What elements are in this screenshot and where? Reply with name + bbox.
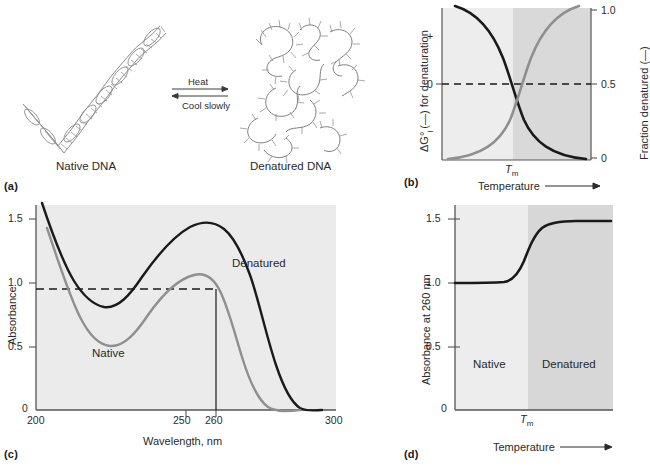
- panel-label-a: (a): [4, 180, 18, 192]
- equilibrium-arrows: [172, 87, 228, 99]
- panel-d-region-label-native: Native: [473, 358, 506, 370]
- panel-d-region-label-denatured: Denatured: [542, 358, 596, 370]
- panel-b-temperature-arrow: [545, 183, 600, 189]
- panel-c-native-curve-label: Native: [92, 347, 125, 359]
- panel-b-free-energy-chart: + 0 − 1.0 0.5 0 ΔG° (—) for denaturation…: [400, 0, 644, 195]
- panel-b-right-tick-label-1: 1.0: [601, 4, 616, 16]
- panel-c-x-axis-title: Wavelength, nm: [143, 435, 222, 447]
- panel-c-denatured-curve-label: Denatured: [232, 257, 286, 269]
- panel-b-y2-axis-title: Fraction denatured (—): [638, 46, 650, 160]
- panel-a-dna-denaturation-diagram: Native DNA Denatured DNA Heat Cool slowl…: [0, 0, 400, 195]
- panel-c-plot: [0, 195, 400, 468]
- panel-label-b: (b): [404, 176, 419, 188]
- native-dna-caption: Native DNA: [56, 160, 116, 172]
- panel-c-absorbance-spectrum-chart: 1.5 1.0 0.5 0 200 250 260 300 Absorbance…: [0, 195, 400, 468]
- panel-c-y-axis-title: Absorbance: [6, 286, 18, 345]
- denatured-dna-coils: [240, 18, 365, 163]
- panel-b-plot: [400, 0, 644, 195]
- panel-d-temperature-arrow: [560, 444, 612, 450]
- panel-d-y-tick-label-0: 0: [441, 402, 447, 414]
- panel-c-plot-bg: [36, 205, 336, 410]
- panel-b-tm-label: Tm: [505, 163, 518, 178]
- panel-b-right-tick-label-0: 0: [601, 152, 607, 164]
- panel-c-x-tick-label-250: 250: [173, 414, 191, 426]
- panel-c-x-tick-label-300: 300: [325, 414, 343, 426]
- cool-slowly-arrow-label: Cool slowly: [182, 100, 230, 111]
- panel-c-x-tick-label-260: 260: [205, 414, 223, 426]
- panel-c-y-tick-label-15: 1.5: [8, 212, 23, 224]
- panel-c-y-tick-label-0: 0: [22, 402, 28, 414]
- panel-label-c: (c): [4, 448, 18, 460]
- panel-d-bg-native: [455, 205, 528, 410]
- panel-d-x-axis-title: Temperature: [493, 441, 555, 453]
- panel-b-x-axis-title: Temperature: [478, 180, 540, 192]
- denatured-dna-caption: Denatured DNA: [250, 160, 331, 172]
- panel-d-tm-label: Tm: [520, 413, 533, 428]
- panel-label-d: (d): [404, 448, 419, 460]
- heat-arrow-label: Heat: [188, 76, 208, 87]
- panel-d-y-tick-label-15: 1.5: [426, 212, 441, 224]
- panel-b-right-tick-label-05: 0.5: [601, 78, 616, 90]
- panel-c-x-tick-label-200: 200: [27, 414, 45, 426]
- panel-d-y-axis-title: Absorbance at 260 nm: [420, 274, 432, 385]
- native-dna-helix: [22, 25, 166, 153]
- panel-d-melting-curve-chart: 1.5 1.0 0.5 0 Absorbance at 260 nm Nativ…: [400, 195, 644, 468]
- panel-d-bg-denatured: [528, 205, 613, 410]
- panel-b-y-axis-title: ΔG° (—) for denaturation: [418, 30, 430, 152]
